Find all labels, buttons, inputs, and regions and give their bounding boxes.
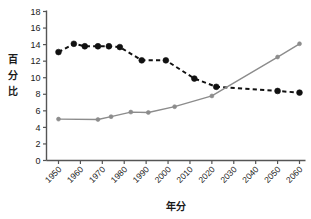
- y-tick-label: 0: [35, 156, 40, 166]
- y-tick-label: 10: [30, 73, 40, 83]
- series-dashed-black: [56, 41, 303, 96]
- series-solid-gray-point: [146, 110, 150, 114]
- x-tick-label: 2040: [240, 164, 261, 185]
- y-tick-label: 18: [30, 7, 40, 17]
- y-tick-label: 8: [35, 89, 40, 99]
- line-chart: 0246810121416181950196019701980199020002…: [0, 0, 311, 219]
- series-solid-gray-point: [173, 105, 177, 109]
- x-axis-label: 年分: [166, 200, 186, 212]
- series-solid-gray-point: [109, 115, 113, 119]
- x-tick-label: 2030: [218, 164, 239, 185]
- series-dashed-black-point: [82, 43, 88, 49]
- x-tick-label: 1980: [109, 164, 130, 185]
- series-solid-gray-point: [276, 55, 280, 59]
- series-solid-gray-point: [57, 117, 61, 121]
- x-tick-label: 1960: [65, 164, 86, 185]
- series-dashed-black-point: [56, 49, 62, 55]
- x-tick-label: 2050: [262, 164, 283, 185]
- y-tick-label: 6: [35, 106, 40, 116]
- series-dashed-black-line: [59, 44, 300, 93]
- y-tick-label: 2: [35, 139, 40, 149]
- y-tick-label: 4: [35, 123, 40, 133]
- series-solid-gray: [57, 42, 302, 122]
- series-dashed-black-point: [297, 90, 303, 96]
- series-solid-gray-line: [59, 44, 300, 120]
- series-dashed-black-point: [117, 44, 123, 50]
- x-tick-label: 2060: [284, 164, 305, 185]
- y-tick-label: 16: [30, 23, 40, 33]
- series-dashed-black-point: [71, 41, 77, 47]
- series-dashed-black-point: [139, 57, 145, 63]
- y-axis-label-char: 分: [8, 69, 18, 81]
- series-dashed-black-point: [95, 43, 101, 49]
- series-dashed-black-point: [275, 88, 281, 94]
- x-tick-label: 2000: [153, 164, 174, 185]
- series-solid-gray-point: [129, 110, 133, 114]
- series-solid-gray-point: [210, 94, 214, 98]
- series-dashed-black-point: [213, 84, 219, 90]
- x-tick-label: 1950: [43, 164, 64, 185]
- x-tick-label: 1970: [87, 164, 108, 185]
- series-dashed-black-point: [163, 57, 169, 63]
- series-dashed-black-point: [191, 76, 197, 82]
- x-tick-label: 1990: [131, 164, 152, 185]
- x-tick-label: 2010: [174, 164, 195, 185]
- y-tick-label: 14: [30, 40, 40, 50]
- chart-container: 0246810121416181950196019701980199020002…: [0, 0, 311, 219]
- x-tick-label: 2020: [196, 164, 217, 185]
- y-axis-label-char: 百: [8, 54, 18, 65]
- series-solid-gray-point: [298, 42, 302, 46]
- series-solid-gray-point: [96, 118, 100, 122]
- y-tick-label: 12: [30, 56, 40, 66]
- series-dashed-black-point: [106, 43, 112, 49]
- y-axis-label-char: 比: [8, 85, 18, 97]
